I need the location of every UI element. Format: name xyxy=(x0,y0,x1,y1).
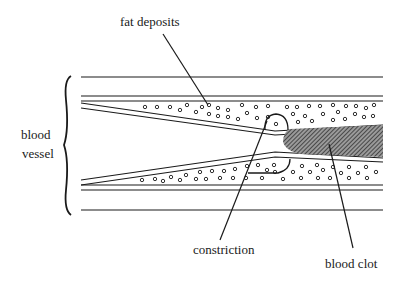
blood-clot xyxy=(283,125,383,157)
constriction-label: constriction xyxy=(193,242,254,258)
blood-vessel-label-line1: blood xyxy=(21,127,51,143)
fat-deposits-pointer xyxy=(163,34,208,105)
constriction-pointer xyxy=(220,121,267,240)
blood-vessel-brace xyxy=(64,76,71,215)
blood-vessel-label-line2: vessel xyxy=(22,146,54,162)
fat-deposits-label: fat deposits xyxy=(120,14,180,30)
blood-clot-label: blood clot xyxy=(325,256,377,272)
